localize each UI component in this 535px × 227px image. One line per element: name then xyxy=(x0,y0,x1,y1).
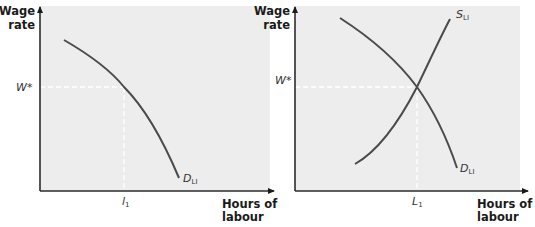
right-y-axis-label-line2: rate xyxy=(263,18,290,32)
left-y-axis-label-line2: rate xyxy=(8,18,35,32)
right-x-axis-label-line2: labour xyxy=(477,210,519,224)
right-quantity-label: L1 xyxy=(412,195,423,209)
right-y-axis-label-line1: Wage xyxy=(254,4,290,18)
right-wage-label: W* xyxy=(275,74,292,87)
left-quantity-label: l1 xyxy=(122,195,130,209)
left-plot-background xyxy=(40,6,270,191)
right-panel: Wage rate Hours of labour W* L1 SLI DLI xyxy=(254,4,533,224)
right-plot-background xyxy=(295,6,520,191)
left-x-axis-label-line2: labour xyxy=(222,210,264,224)
left-x-axis-label-line1: Hours of xyxy=(222,197,278,211)
left-panel: Wage rate Hours of labour W* l1 DLI xyxy=(0,4,278,224)
left-wage-label: W* xyxy=(16,81,33,94)
right-x-axis-label-line1: Hours of xyxy=(477,197,533,211)
left-y-axis-label-line1: Wage xyxy=(0,4,35,18)
labour-market-diagram: Wage rate Hours of labour W* l1 DLI Wage… xyxy=(0,0,535,227)
